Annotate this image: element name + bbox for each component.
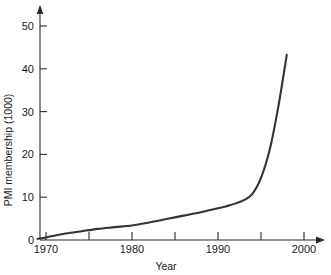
chart-container: 50 40 30 20 10 0 1970 1980 1990 2000 Yea… xyxy=(0,0,331,275)
y-axis-title: PMI membership (1000) xyxy=(2,94,14,207)
y-tick-label-20: 20 xyxy=(22,148,34,160)
y-tick-label-50: 50 xyxy=(22,20,34,32)
pmi-membership-line-chart: 50 40 30 20 10 0 1970 1980 1990 2000 Yea… xyxy=(0,0,331,275)
x-tick-label-1970: 1970 xyxy=(34,243,58,255)
x-axis-title: Year xyxy=(155,260,177,272)
y-tick-label-40: 40 xyxy=(22,63,34,75)
x-tick-label-1990: 1990 xyxy=(206,243,230,255)
chart-background xyxy=(0,0,331,275)
y-tick-label-30: 30 xyxy=(22,106,34,118)
x-tick-label-1980: 1980 xyxy=(120,243,144,255)
x-tick-label-2000: 2000 xyxy=(292,243,316,255)
y-tick-label-10: 10 xyxy=(22,191,34,203)
